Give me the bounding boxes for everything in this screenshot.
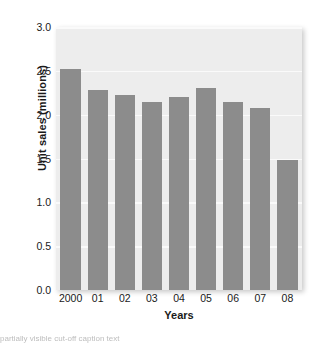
bar-05 xyxy=(196,88,216,290)
bar-06 xyxy=(223,102,243,290)
bar-slot xyxy=(138,27,165,290)
bar-chart-figure: Unit sales (millions) 0.00.51.01.52.02.5… xyxy=(0,0,321,343)
x-tick-label: 06 xyxy=(220,292,247,304)
bar-02 xyxy=(115,95,135,290)
x-tick-label: 01 xyxy=(84,292,111,304)
bar-07 xyxy=(250,108,270,290)
x-tick-label: 02 xyxy=(111,292,138,304)
bar-slot xyxy=(165,27,192,290)
y-tick-label: 2.5 xyxy=(24,65,51,77)
clipped-caption: partially visible cut-off caption text xyxy=(0,334,321,343)
y-axis-tick-labels: 0.00.51.01.52.02.53.0 xyxy=(24,0,51,343)
y-tick-label: 2.0 xyxy=(24,109,51,121)
bar-slot xyxy=(220,27,247,290)
bar-08 xyxy=(277,160,297,290)
bar-03 xyxy=(142,102,162,290)
clipped-caption-text: partially visible cut-off caption text xyxy=(0,334,321,343)
bar-slot xyxy=(84,27,111,290)
bar-04 xyxy=(169,97,189,290)
bar-slot xyxy=(57,27,84,290)
x-tick-label: 2000 xyxy=(57,292,84,304)
bar-01 xyxy=(88,90,108,290)
x-axis-tick-labels: 20000102030405060708 xyxy=(56,292,302,304)
bar-2000 xyxy=(60,69,80,290)
x-tick-label: 07 xyxy=(247,292,274,304)
x-tick-label: 05 xyxy=(193,292,220,304)
y-tick-label: 3.0 xyxy=(24,21,51,33)
y-tick-label: 0.5 xyxy=(24,240,51,252)
x-axis-title: Years xyxy=(56,309,302,321)
x-tick-label: 08 xyxy=(274,292,301,304)
x-tick-label: 04 xyxy=(165,292,192,304)
x-tick-label: 03 xyxy=(138,292,165,304)
bar-slot xyxy=(193,27,220,290)
bar-series xyxy=(56,27,302,290)
plot-area xyxy=(56,27,302,290)
bar-slot xyxy=(247,27,274,290)
bar-slot xyxy=(111,27,138,290)
y-tick-label: 1.0 xyxy=(24,196,51,208)
y-tick-label: 1.5 xyxy=(24,153,51,165)
y-tick-label: 0.0 xyxy=(24,284,51,296)
bar-slot xyxy=(274,27,301,290)
